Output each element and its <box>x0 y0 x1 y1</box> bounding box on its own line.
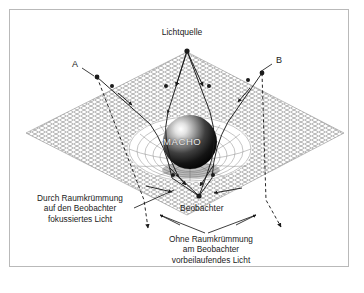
observer-dot <box>196 193 201 198</box>
leader-passing-right <box>208 215 256 233</box>
passing-light-line-1: Ohne Raumkrümmung <box>148 234 274 244</box>
focused-light-line-3: fokussiertes Licht <box>22 214 138 224</box>
leader-b <box>260 64 272 72</box>
focused-light-line-2: auf den Beobachter <box>22 203 138 213</box>
label-light-source: Lichtquelle <box>0 27 364 38</box>
passing-light-line-2: am Beobachter <box>148 244 274 254</box>
label-point-a: A <box>72 59 78 70</box>
label-focused-light: Durch Raumkrümmung auf den Beobachter fo… <box>22 193 138 224</box>
focused-light-line-1: Durch Raumkrümmung <box>22 193 138 203</box>
leader-a <box>82 68 94 76</box>
label-point-b: B <box>276 55 282 66</box>
figure-microlensing-diagram: Lichtquelle A B MACHO Beobachter Durch R… <box>0 0 364 293</box>
leader-passing-left <box>160 215 205 233</box>
passing-light-line-3: vorbeilaufendes Licht <box>148 255 274 265</box>
node-a-dot <box>95 75 100 80</box>
light-source-dot <box>184 48 189 53</box>
label-passing-light: Ohne Raumkrümmung am Beobachter vorbeila… <box>148 234 274 265</box>
label-observer: Beobachter <box>180 203 223 214</box>
